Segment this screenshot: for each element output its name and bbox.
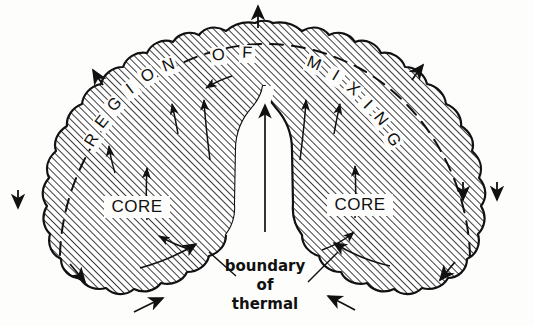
core-label-right-text: CORE [334, 195, 385, 214]
core-label-left-text: CORE [111, 197, 162, 216]
caption-line-1: boundary [225, 257, 306, 275]
arc-letter: F [239, 43, 256, 64]
core-label-right: CORE [327, 194, 393, 216]
boundary-caption: boundary of thermal [225, 257, 306, 313]
arc-letter: O [209, 44, 227, 66]
thermal-body [43, 21, 486, 294]
caption-line-3: thermal [232, 295, 298, 313]
thermal-diagram: CORE CORE REGIONOFMIXING boundary of the… [0, 0, 534, 326]
core-label-left: CORE [104, 196, 170, 218]
figure-canvas: CORE CORE REGIONOFMIXING boundary of the… [0, 0, 534, 326]
caption-line-2: of [257, 276, 274, 294]
arc-letter-text: F [242, 43, 253, 61]
arc-letter-text: O [211, 44, 226, 63]
